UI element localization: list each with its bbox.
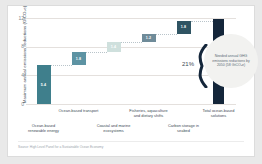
waterfall-bar: 1.8 [72,52,86,65]
gridline [26,18,236,19]
connector-line [86,52,107,53]
waterfall-bar: 1.8 [177,21,191,34]
y-tick-label: 4 [16,73,24,78]
chart-card: Maximum annual emissions reductions (GtC… [8,6,254,156]
x-axis-label: Fisheries, aquaculture and dietary shift… [128,109,168,118]
callout-bubble: Needed annual GHG emissions reductions b… [204,34,258,88]
x-axis-label: Ocean-based renewable energy [23,124,63,133]
y-tick-label: 8 [16,44,24,49]
connector-line [51,65,72,66]
x-axis-label: Ocean-based transport [58,109,98,114]
gridline [26,104,236,105]
percent-annotation: 21% [182,61,194,67]
waterfall-bar: 1.4 [107,42,121,52]
y-tick-label: 12 [16,16,24,21]
connector-line [191,21,213,22]
connector-line [121,42,142,43]
source-note: Source: High Level Panel for a Sustainab… [18,141,244,149]
waterfall-bar: 5.4 [37,65,51,104]
y-tick-label: 0 [16,102,24,107]
x-axis-label: Carbon storage in seabed [163,124,203,133]
waterfall-bar: 1.2 [142,34,156,43]
x-axis-label: Coastal and marine ecosystems [93,124,133,133]
x-axis-label: Total ocean-based solutions [198,109,238,118]
callout-bubble-text: Needed annual GHG emissions reductions b… [204,54,258,68]
connector-line [156,34,177,35]
